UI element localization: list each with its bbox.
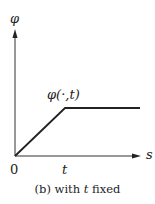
origin-label: 0 [10, 163, 18, 176]
y-axis [13, 29, 18, 156]
x-tick-label-t: t [62, 163, 67, 176]
x-axis [15, 154, 141, 159]
figure-caption: (b) with t fixed [0, 182, 155, 196]
y-axis-label: φ [10, 12, 19, 25]
y-axis-arrow-icon [13, 29, 18, 38]
curve-label: φ(·,t) [47, 88, 80, 101]
curve-phi [15, 108, 140, 156]
diagram-canvas [0, 0, 155, 204]
x-axis-label: s [146, 148, 153, 161]
x-axis-arrow-icon [132, 154, 141, 159]
caption-prefix: (b) with [35, 182, 84, 196]
caption-suffix: fixed [88, 182, 120, 196]
